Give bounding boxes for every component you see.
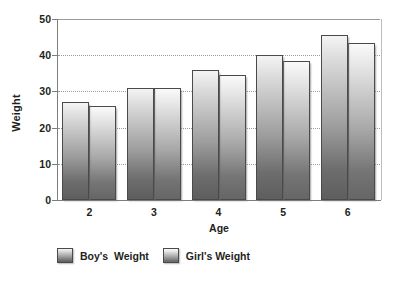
bar-girls-age-6[interactable]	[348, 43, 375, 200]
y-tick-text: 0	[26, 194, 51, 206]
y-tick-label-20: 20	[26, 122, 51, 134]
y-tick-text: 50	[26, 13, 51, 25]
bar-girls-age-4[interactable]	[219, 75, 246, 200]
bar-girls-age-5[interactable]	[283, 61, 310, 200]
y-tick-text: 30	[26, 85, 51, 97]
y-tick-text: 10	[26, 158, 51, 170]
bar-boys-age-6[interactable]	[321, 35, 348, 200]
y-tick-text: 40	[26, 49, 51, 61]
bar-girls-age-2[interactable]	[89, 106, 116, 200]
y-tick-label-50: 50	[26, 13, 51, 25]
legend: Boy's WeightGirl's Weight	[57, 248, 250, 263]
x-axis-title: Age	[57, 222, 381, 234]
x-tick-label-3: 3	[134, 206, 174, 218]
x-axis-baseline	[57, 200, 381, 201]
legend-swatch-boys	[57, 248, 73, 263]
bar-boys-age-2[interactable]	[62, 102, 89, 200]
y-tick-label-10: 10	[26, 158, 51, 170]
legend-label-boys: Boy's Weight	[80, 250, 149, 262]
legend-item-girls[interactable]: Girl's Weight	[163, 248, 250, 263]
legend-swatch-girls	[163, 248, 179, 263]
bar-group-5	[256, 19, 310, 200]
bar-boys-age-4[interactable]	[192, 70, 219, 200]
x-tick-label-6: 6	[328, 206, 368, 218]
bar-group-6	[321, 19, 375, 200]
bar-chart: Weight 01020304050 23456 Age Boy's Weigh…	[0, 0, 400, 286]
y-tick-label-0: 0	[26, 194, 51, 206]
y-tick-label-40: 40	[26, 49, 51, 61]
legend-item-boys[interactable]: Boy's Weight	[57, 248, 149, 263]
x-tick-label-5: 5	[263, 206, 303, 218]
x-tick-label-4: 4	[199, 206, 239, 218]
bar-group-4	[192, 19, 246, 200]
y-tick-label-30: 30	[26, 85, 51, 97]
bar-group-3	[127, 19, 181, 200]
y-tick-text: 20	[26, 122, 51, 134]
bar-group-2	[62, 19, 116, 200]
x-tick-label-2: 2	[69, 206, 109, 218]
bar-girls-age-3[interactable]	[154, 88, 181, 200]
legend-label-girls: Girl's Weight	[186, 250, 250, 262]
bar-boys-age-5[interactable]	[256, 55, 283, 200]
y-axis-title: Weight	[10, 78, 22, 148]
bar-boys-age-3[interactable]	[127, 88, 154, 200]
